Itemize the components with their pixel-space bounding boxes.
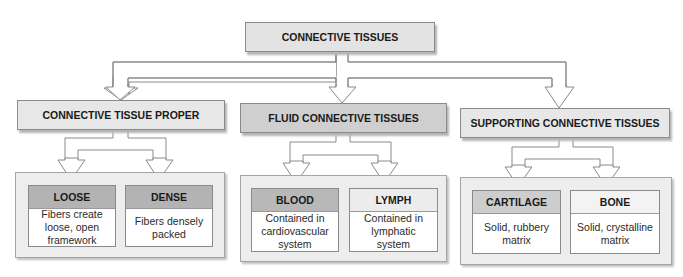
- category-connective-tissue-proper: CONNECTIVE TISSUE PROPER: [17, 100, 225, 130]
- category-label: FLUID CONNECTIVE TISSUES: [268, 112, 419, 124]
- type-card-bone: BONE Solid, crystalline matrix: [570, 190, 660, 254]
- type-header: LOOSE: [29, 186, 115, 209]
- type-description: Contained in lymphatic system: [350, 212, 437, 251]
- type-card-cartilage: CARTILAGE Solid, rubbery matrix: [472, 190, 561, 254]
- type-card-blood: BLOOD Contained in cardiovascular system: [251, 188, 339, 252]
- arrowhead: [545, 85, 574, 108]
- type-header: BLOOD: [252, 189, 338, 212]
- category-supporting-connective-tissues: SUPPORTING CONNECTIVE TISSUES: [460, 108, 670, 138]
- root-label: CONNECTIVE TISSUES: [282, 31, 399, 43]
- group-fluid: BLOOD Contained in cardiovascular system…: [240, 175, 447, 262]
- type-header: CARTILAGE: [473, 191, 560, 214]
- type-description: Fibers densely packed: [126, 209, 212, 246]
- root-node: CONNECTIVE TISSUES: [245, 22, 435, 52]
- type-header: LYMPH: [350, 189, 437, 212]
- type-card-lymph: LYMPH Contained in lymphatic system: [349, 188, 438, 252]
- type-header: DENSE: [126, 186, 212, 209]
- type-description: Solid, crystalline matrix: [571, 214, 659, 253]
- arrowhead: [329, 85, 356, 103]
- category-label: CONNECTIVE TISSUE PROPER: [43, 109, 200, 121]
- type-description: Solid, rubbery matrix: [473, 214, 560, 253]
- group-supporting: CARTILAGE Solid, rubbery matrix BONE Sol…: [460, 177, 672, 265]
- type-card-loose: LOOSE Fibers create loose, open framewor…: [28, 185, 116, 247]
- type-card-dense: DENSE Fibers densely packed: [125, 185, 213, 247]
- group-proper: LOOSE Fibers create loose, open framewor…: [15, 172, 225, 258]
- type-description: Fibers create loose, open framework: [29, 209, 115, 246]
- category-label: SUPPORTING CONNECTIVE TISSUES: [470, 117, 659, 129]
- category-fluid-connective-tissues: FLUID CONNECTIVE TISSUES: [240, 103, 447, 133]
- type-description: Contained in cardiovascular system: [252, 212, 338, 251]
- type-header: BONE: [571, 191, 659, 214]
